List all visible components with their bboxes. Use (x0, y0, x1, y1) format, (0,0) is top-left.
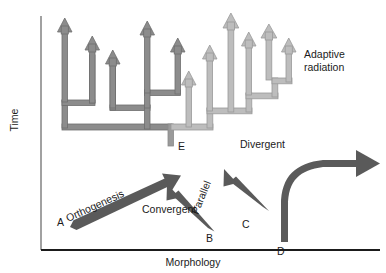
node-label-D: D (277, 245, 285, 257)
dark-tip-1 (58, 18, 73, 102)
divergent-label: Divergent (240, 138, 285, 150)
light-tip-2 (203, 45, 218, 111)
dark-branch-2-stem (145, 105, 151, 129)
dark-clade-group (58, 18, 186, 146)
dark-clade-spine (62, 124, 172, 130)
dark-tip-5 (171, 38, 186, 94)
node-label-B: B (206, 232, 213, 244)
adaptive-radiation-label-line2: radiation (304, 61, 344, 73)
light-tip-1 (182, 71, 197, 127)
light-tip-4 (242, 32, 257, 95)
light-tip-3 (223, 13, 239, 112)
figure-root: Time Morphology Adaptive radiation Ortho… (0, 0, 386, 273)
light-tip-6 (282, 38, 297, 82)
parallel-label: Parallel (189, 179, 213, 216)
dark-tip-4 (140, 21, 155, 93)
evolution-modes-diagram: Time Morphology Adaptive radiation Ortho… (0, 0, 386, 273)
light-tip-5 (261, 24, 277, 80)
convergent-label: Convergent (142, 203, 196, 215)
dark-tip-2 (85, 36, 100, 103)
node-label-E: E (178, 140, 185, 152)
dark-branch-2-cross (110, 105, 150, 111)
light-clade-group (171, 13, 296, 130)
y-axis-label: Time (8, 108, 20, 131)
node-label-A: A (57, 216, 64, 228)
adaptive-radiation-label-line1: Adaptive (304, 48, 345, 60)
divergent-arrow (224, 169, 270, 211)
x-axis-label: Morphology (166, 256, 222, 268)
dark-tip-3 (106, 50, 121, 108)
stasis-shift-arrow (281, 150, 380, 242)
node-label-C: C (242, 218, 250, 230)
